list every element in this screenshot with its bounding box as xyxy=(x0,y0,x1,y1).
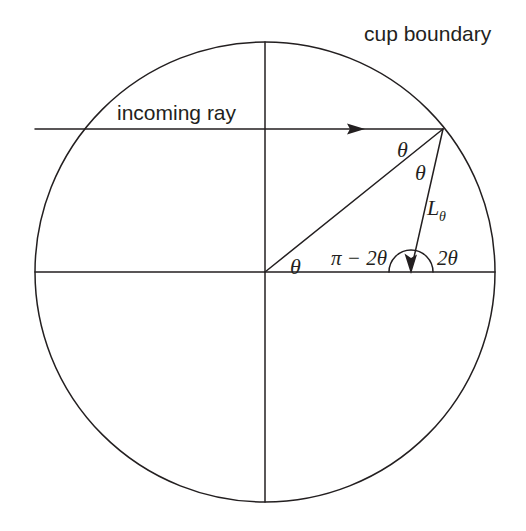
theta-center-label: θ xyxy=(290,254,301,279)
theta-reflection-label: θ xyxy=(415,160,426,185)
incoming-ray-label: incoming ray xyxy=(117,101,237,124)
chord-length-label: L θ xyxy=(426,195,446,224)
two-theta-label: 2θ xyxy=(437,246,458,270)
chord-length-subscript: θ xyxy=(439,209,446,224)
cup-boundary-label: cup boundary xyxy=(364,22,492,45)
ray-reflection-diagram: cup boundary incoming ray θ θ θ L θ π − … xyxy=(0,0,526,531)
chord-length-base: L xyxy=(426,195,439,220)
theta-incidence-label: θ xyxy=(397,137,408,162)
reflected-ray-arrowhead xyxy=(405,254,418,275)
pi-minus-two-theta-label: π − 2θ xyxy=(331,246,387,270)
